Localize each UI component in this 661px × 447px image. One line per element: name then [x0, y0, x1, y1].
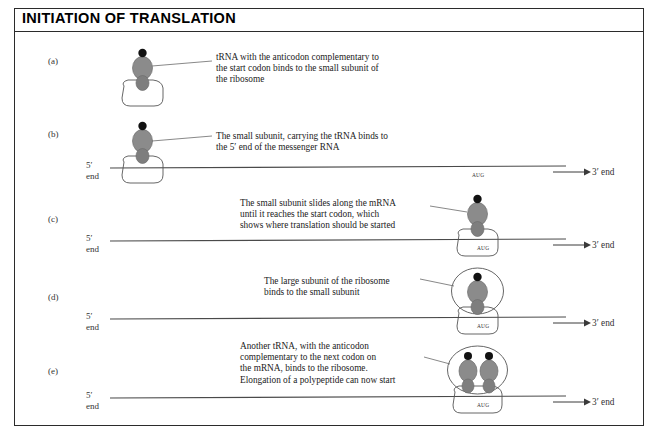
- direction-arrow-head-c: [584, 242, 591, 249]
- panel-b-graphics: [110, 122, 591, 183]
- trna-foot-icon-d: [471, 300, 484, 315]
- direction-arrow-head-e: [584, 399, 591, 406]
- trna-foot-icon-e-p-site: [462, 379, 474, 393]
- diagram-graphics: [0, 0, 661, 447]
- leader-line-e: [424, 357, 450, 364]
- leader-line-b: [152, 136, 212, 141]
- panel-d-graphics: [110, 268, 591, 334]
- trna-foot-icon-b: [136, 149, 149, 164]
- amino-acid-dot-icon-c: [473, 195, 481, 203]
- leader-line-d: [420, 279, 454, 286]
- amino-acid-dot-icon: [138, 49, 146, 57]
- trna-foot-icon: [136, 76, 149, 91]
- mrna-strand-icon-b: [110, 166, 566, 168]
- mrna-strand-icon-e: [110, 396, 566, 398]
- direction-arrow-head-d: [584, 320, 591, 327]
- trna-foot-icon-e-a-site: [483, 379, 495, 393]
- amino-acid-dot-icon-e-a-site: [485, 352, 493, 360]
- trna-foot-icon-c: [471, 222, 484, 237]
- amino-acid-dot-icon-e-p-site: [464, 352, 472, 360]
- panel-e-graphics: [110, 346, 591, 413]
- amino-acid-dot-icon-b: [138, 122, 146, 130]
- translation-initiation-figure: INITIATION OF TRANSLATION (a) (b) (c) (d…: [0, 0, 661, 447]
- leader-line-c: [430, 206, 467, 212]
- panel-c-graphics: [110, 195, 591, 256]
- panel-a-graphics: [122, 49, 212, 106]
- leader-line-a: [152, 61, 212, 66]
- direction-arrow-head-b: [584, 169, 591, 176]
- amino-acid-dot-icon-d: [473, 273, 481, 281]
